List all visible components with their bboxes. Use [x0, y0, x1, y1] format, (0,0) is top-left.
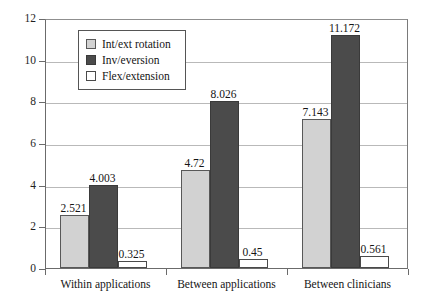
bar: [302, 119, 331, 268]
legend-item: Int/ext rotation: [86, 36, 178, 52]
x-axis-tick-mark: [45, 269, 46, 275]
x-axis-category-label: Between clinicians: [287, 277, 408, 291]
bar-value-label: 0.325: [119, 248, 145, 260]
bar-value-label: 0.561: [361, 243, 387, 255]
bar: [331, 35, 360, 268]
legend-item-label: Int/ext rotation: [102, 38, 171, 50]
legend: Int/ext rotationInv/eversionFlex/extensi…: [78, 30, 186, 90]
bar: [89, 185, 118, 268]
y-axis-tick-label: 10: [4, 55, 36, 67]
x-axis-category-label: Between applications: [166, 277, 287, 291]
bar-value-label: 11.172: [329, 22, 360, 34]
y-axis-tick-label: 0: [4, 263, 36, 275]
x-axis-tick-mark: [287, 269, 288, 275]
legend-item-label: Flex/extension: [102, 70, 170, 82]
x-axis-tick-mark: [166, 269, 167, 275]
x-axis-tick-mark: [408, 269, 409, 275]
bar-value-label: 4.72: [184, 157, 204, 169]
legend-item: Flex/extension: [86, 68, 178, 84]
legend-item: Inv/eversion: [86, 52, 178, 68]
x-axis-category-label: Within applications: [45, 277, 166, 291]
bar-value-label: 8.026: [211, 88, 237, 100]
y-axis: 024681012: [0, 0, 36, 303]
bar: [118, 261, 147, 268]
bar: [360, 256, 389, 268]
bar-value-label: 0.45: [242, 246, 262, 258]
legend-swatch-icon: [86, 71, 96, 81]
bar-value-label: 4.003: [90, 172, 116, 184]
bar-value-label: 2.521: [61, 202, 87, 214]
legend-swatch-icon: [86, 39, 96, 49]
bar: [60, 215, 89, 268]
bar-value-label: 7.143: [303, 106, 329, 118]
y-axis-tick-label: 4: [4, 180, 36, 192]
bar: [239, 259, 268, 268]
legend-item-label: Inv/eversion: [102, 54, 159, 66]
y-axis-tick-label: 8: [4, 97, 36, 109]
y-axis-tick-label: 6: [4, 138, 36, 150]
bar: [181, 170, 210, 268]
bar-chart: 024681012 2.5214.0030.3254.728.0260.457.…: [0, 0, 428, 303]
legend-swatch-icon: [86, 55, 96, 65]
y-axis-tick-label: 2: [4, 222, 36, 234]
bar: [210, 101, 239, 268]
y-axis-tick-label: 12: [4, 13, 36, 25]
